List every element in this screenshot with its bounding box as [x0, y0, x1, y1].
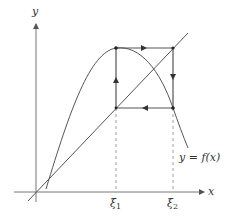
xi1-tick-label: ξ1	[110, 198, 121, 211]
curve-f	[46, 48, 188, 189]
cobweb-diagram: y x y = f(x) ξ1 ξ2	[0, 0, 232, 224]
diagram-canvas	[0, 0, 232, 224]
curve-label: y = f(x)	[179, 152, 220, 163]
y-axis-label: y	[32, 6, 38, 17]
diagonal-line	[28, 33, 188, 201]
x-axis-label: x	[208, 186, 214, 197]
xi2-tick-label: ξ2	[167, 198, 178, 211]
xi2-subscript: 2	[173, 202, 178, 211]
xi1-subscript: 1	[116, 202, 121, 211]
